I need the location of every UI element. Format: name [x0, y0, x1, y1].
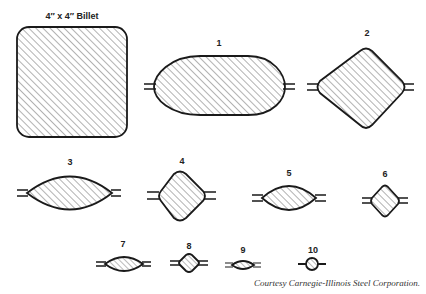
- pass-9-shape: [225, 261, 261, 269]
- pass-2-label: 2: [364, 28, 369, 38]
- pass-4-label: 4: [179, 156, 184, 166]
- pass-9-label: 9: [240, 245, 245, 255]
- billet-shape: [17, 27, 127, 137]
- pass-10-shape: [298, 258, 326, 270]
- pass-7-shape: [96, 257, 151, 271]
- pass-4-shape: [147, 172, 216, 221]
- pass-3-label: 3: [67, 157, 72, 167]
- pass-1-label: 1: [216, 38, 221, 48]
- pass-1-shape: [144, 56, 295, 115]
- pass-5-shape: [252, 186, 326, 210]
- roll-pass-diagram: [0, 0, 426, 294]
- pass-5-label: 5: [286, 168, 291, 178]
- pass-3-shape: [17, 177, 121, 210]
- pass-6-label: 6: [382, 169, 387, 179]
- pass-8-label: 8: [186, 241, 191, 251]
- credit-line: Courtesy Carnegie-Illinois Steel Corpora…: [254, 278, 420, 288]
- pass-7-label: 7: [120, 239, 125, 249]
- billet-title: 4″ x 4″ Billet: [45, 11, 98, 21]
- pass-2-shape: [307, 49, 414, 129]
- pass-8-shape: [170, 254, 208, 272]
- pass-6-shape: [362, 186, 408, 217]
- pass-10-label: 10: [308, 245, 318, 255]
